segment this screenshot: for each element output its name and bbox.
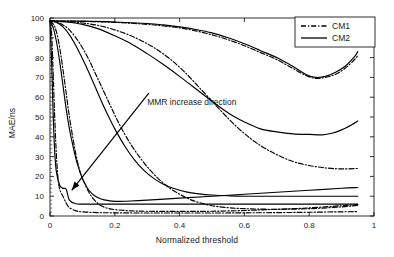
- x-tick-label: 0.4: [174, 221, 186, 230]
- chart-canvas: 00.20.40.60.81 0102030405060708090100 MM…: [0, 0, 394, 257]
- y-tick-label: 100: [31, 14, 45, 23]
- legend: CM1CM2: [295, 17, 375, 47]
- legend-label-CM2: CM2: [332, 33, 350, 43]
- x-tick-label: 0.2: [109, 221, 121, 230]
- y-tick-label: 40: [35, 133, 44, 142]
- x-axis-label: Normalized threshold: [0, 235, 394, 245]
- annotation-label: MMR increase direction: [147, 97, 237, 107]
- x-tick-label: 0.6: [239, 221, 251, 230]
- x-tick-label: 1: [372, 221, 377, 230]
- legend-label-CM1: CM1: [332, 21, 350, 31]
- y-tick-label: 30: [35, 153, 44, 162]
- y-tick-label: 80: [35, 54, 44, 63]
- plot-background: [50, 18, 374, 216]
- x-tick-label: 0: [48, 221, 53, 230]
- y-axis-label: MAE/ns: [7, 93, 17, 153]
- y-tick-label: 0: [40, 212, 45, 221]
- y-tick-label: 90: [35, 34, 44, 43]
- y-tick-label: 70: [35, 73, 44, 82]
- y-tick-label: 10: [35, 192, 44, 201]
- y-tick-label: 20: [35, 172, 44, 181]
- figure-container: 00.20.40.60.81 0102030405060708090100 MM…: [0, 0, 394, 257]
- y-tick-label: 50: [35, 113, 44, 122]
- x-tick-label: 0.8: [304, 221, 316, 230]
- y-tick-label: 60: [35, 93, 44, 102]
